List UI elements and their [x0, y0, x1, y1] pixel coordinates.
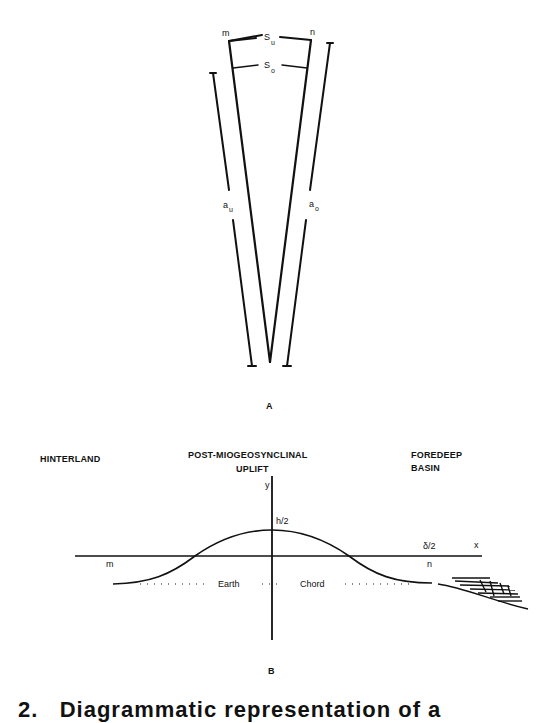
axis-x-label: x: [474, 540, 479, 550]
earth-chord-label-right: Chord: [300, 579, 325, 589]
region-uplift-line1: POST-MIOGEOSYNCLINAL: [188, 450, 308, 460]
panel-a-arc-lower-sub: o: [271, 67, 275, 74]
panel-b-point-m: m: [106, 559, 114, 569]
region-foredeep-line2: BASIN: [411, 463, 440, 473]
peak-label: h/2: [276, 516, 289, 526]
earth-chord-label-left: Earth: [218, 579, 240, 589]
panel-a-arc-lower-label: S: [264, 60, 270, 70]
panel-a-side-left-label: a: [223, 200, 228, 210]
panel-a-wedge: [210, 35, 333, 366]
figure-caption: 2. Diagrammatic representation of a: [18, 697, 441, 723]
axis-y-label: y: [265, 480, 270, 490]
panel-b-label: B: [268, 666, 275, 676]
panel-a-arc-upper-label: S: [264, 32, 270, 42]
panel-a-label: A: [266, 401, 273, 411]
panel-a-arc-upper-sub: u: [271, 39, 275, 46]
foredeep-sediment-fill: [438, 578, 528, 609]
region-foredeep-line1: FOREDEEP: [411, 450, 462, 460]
panel-a-point-n: n: [310, 27, 315, 37]
panel-b-point-n: n: [427, 559, 432, 569]
region-uplift-line2: UPLIFT: [236, 464, 269, 474]
right-tick-label: δ/2: [423, 541, 436, 551]
panel-a-side-right-label: a: [309, 199, 314, 209]
panel-b-axes: [75, 476, 482, 640]
panel-a-point-m: m: [222, 28, 230, 38]
panel-a-side-right-sub: o: [315, 205, 319, 212]
region-hinterland: HINTERLAND: [40, 454, 101, 464]
panel-a-side-left-sub: u: [229, 206, 233, 213]
